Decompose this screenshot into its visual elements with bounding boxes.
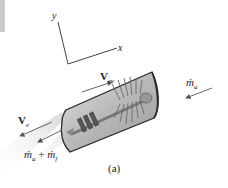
ve-label: Ve <box>18 114 29 129</box>
y-axis-label: y <box>52 10 56 21</box>
x-axis-label: x <box>118 42 122 53</box>
mass-outflow-label: ṁa + ṁf <box>24 148 57 163</box>
coordinate-axes <box>58 22 117 64</box>
figure-stage: y x Vcv ṁa Ve ṁa + ṁf (a) <box>0 0 228 188</box>
figure-caption: (a) <box>108 162 120 174</box>
vcv-label: Vcv <box>100 70 114 85</box>
ma-inflow-label: ṁa <box>186 76 197 91</box>
